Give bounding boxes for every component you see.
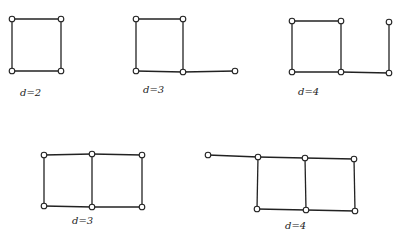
node-g4-3	[41, 203, 47, 209]
edge-g5-0	[208, 155, 258, 157]
graph-label-g2: d=3	[143, 84, 164, 95]
edge-g5-3	[354, 159, 355, 211]
edge-g4-0	[44, 154, 92, 155]
graph-label-g5: d=4	[285, 220, 306, 231]
edge-g5-1	[258, 157, 305, 158]
node-g5-5	[303, 207, 309, 213]
node-g1-0	[9, 16, 15, 22]
node-g5-3	[351, 156, 357, 162]
edge-g3-4	[341, 72, 389, 73]
node-g5-1	[255, 154, 261, 160]
graph-diagram: d=2 d=3 d=4 d=3 d=4	[0, 0, 402, 236]
node-g2-3	[180, 69, 186, 75]
edge-g2-4	[183, 71, 235, 72]
node-g4-1	[89, 151, 95, 157]
edge-g2-2	[136, 71, 183, 72]
edge-g5-7	[305, 158, 306, 210]
node-g1-1	[58, 16, 64, 22]
node-g3-2	[289, 69, 295, 75]
node-g1-3	[58, 68, 64, 74]
node-g3-1	[338, 18, 344, 24]
node-g2-2	[133, 68, 139, 74]
node-g5-0	[205, 152, 211, 158]
node-g3-4	[386, 70, 392, 76]
graph-label-g3: d=4	[298, 86, 319, 97]
edge-g5-5	[257, 209, 306, 210]
node-g4-4	[89, 204, 95, 210]
nodes-layer	[9, 16, 392, 214]
node-g3-3	[338, 69, 344, 75]
node-g1-2	[9, 68, 15, 74]
edge-g4-1	[92, 154, 142, 155]
node-g5-4	[254, 206, 260, 212]
node-g2-0	[133, 16, 139, 22]
node-g4-5	[139, 204, 145, 210]
edge-g4-4	[44, 206, 92, 207]
node-g4-0	[41, 152, 47, 158]
node-g5-2	[302, 155, 308, 161]
edge-g5-6	[257, 157, 258, 209]
graph-label-g4: d=3	[72, 215, 93, 226]
edge-g5-4	[306, 210, 355, 211]
edges-layer	[12, 19, 389, 211]
node-g2-4	[232, 68, 238, 74]
node-g3-0	[289, 18, 295, 24]
node-g4-2	[139, 152, 145, 158]
node-g2-1	[180, 16, 186, 22]
edge-g5-2	[305, 158, 354, 159]
node-g5-6	[352, 208, 358, 214]
node-g3-5	[386, 19, 392, 25]
graph-label-g1: d=2	[20, 87, 41, 98]
